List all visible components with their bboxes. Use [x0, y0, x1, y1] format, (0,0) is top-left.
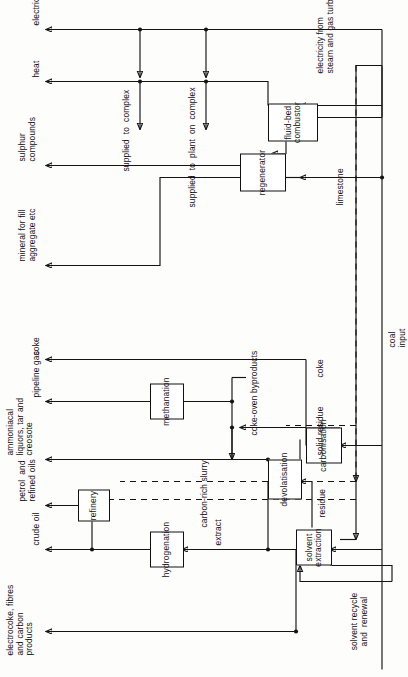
- label-solvent-recycle: solvent recycle and renewal: [350, 581, 369, 661]
- diagram-canvas: solvent extraction hydrogenation refiner…: [0, 0, 408, 677]
- node-label: devolatisation: [280, 452, 289, 506]
- node-devolatisation[interactable]: devolatisation: [268, 459, 302, 499]
- label-electricity-from-turbines: electricity from steam and gas turbines: [316, 0, 335, 73]
- node-label: solvent extraction: [305, 528, 323, 566]
- output-label-mineral: mineral for fill aggregate etc: [18, 208, 37, 261]
- flow-connectors: [0, 0, 408, 677]
- label-carbon-rich-slurry: carbon-rich slurry: [200, 460, 210, 527]
- label-residue: residue: [318, 488, 328, 517]
- label-coke-oven-byproducts: coke-oven byproducts: [250, 350, 260, 435]
- label-coal-input-line2: input: [398, 328, 408, 347]
- output-label-heat: heat: [32, 60, 42, 77]
- output-label-sulphur: sulphur compounds: [18, 116, 37, 161]
- output-label-pipeline-gas: pipeline gas: [32, 350, 42, 397]
- node-label: methanation: [162, 377, 171, 425]
- output-label-petrol: petrol and refined oils: [18, 459, 37, 501]
- output-label-electricity: electricity: [32, 0, 42, 25]
- node-label: refinery: [89, 490, 98, 520]
- label-supplied-to-plant-on-complex: supplied to plant on complex: [188, 87, 198, 207]
- node-solvent-extraction[interactable]: solvent extraction: [296, 529, 332, 565]
- label-extract: extract: [214, 519, 224, 545]
- node-methanation[interactable]: methanation: [150, 383, 184, 419]
- node-fluid-bed-combustor[interactable]: fluid-bed combustor: [268, 103, 318, 141]
- label-solid-residue: solid residue: [316, 406, 326, 455]
- node-regenerator[interactable]: regenerator: [240, 153, 286, 191]
- label-coke-internal: coke: [316, 359, 326, 377]
- node-label: fluid-bed combustor: [284, 102, 302, 143]
- node-label: hydrogenation: [162, 521, 171, 577]
- output-label-coke: coke: [32, 337, 42, 355]
- output-label-electrocoke: electrocoke, fibres and carbon products: [6, 584, 35, 655]
- label-supplied-to-complex: supplied to complex: [122, 89, 132, 171]
- output-label-ammoniacal: ammoniacal liquors, tar and creosote: [6, 397, 35, 455]
- label-limestone: limestone: [336, 168, 346, 205]
- node-label: regenerator: [258, 149, 267, 195]
- output-label-crude-oil: crude oil: [32, 512, 42, 545]
- node-refinery[interactable]: refinery: [78, 489, 110, 521]
- node-hydrogenation[interactable]: hydrogenation: [150, 531, 184, 567]
